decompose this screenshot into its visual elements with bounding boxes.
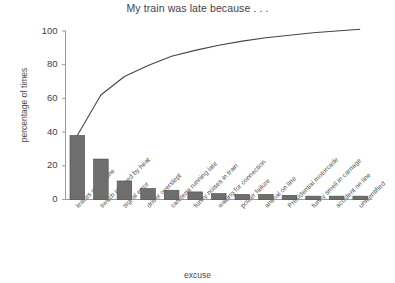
cumulative-line	[77, 29, 360, 135]
bar	[211, 194, 226, 200]
bar	[141, 189, 156, 200]
bar	[70, 135, 85, 199]
pareto-chart: My train was late because . . . percenta…	[0, 0, 395, 283]
bar	[282, 195, 297, 199]
bar	[353, 196, 368, 199]
bar	[329, 196, 344, 199]
axis-group	[62, 31, 372, 200]
plot-area	[0, 0, 395, 283]
bar	[94, 159, 109, 199]
bars-group	[70, 135, 368, 199]
bar	[164, 190, 179, 199]
bar	[259, 194, 274, 199]
bar	[117, 181, 132, 200]
bar	[306, 196, 321, 199]
bar	[188, 192, 203, 200]
bar	[235, 194, 250, 199]
